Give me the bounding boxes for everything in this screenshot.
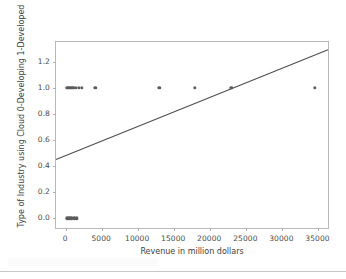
y-axis-label: Type of Industry using Cloud 0-Developin… <box>17 18 26 228</box>
y-axis-tick <box>53 88 56 89</box>
data-point <box>313 86 316 89</box>
y-axis-tick <box>53 140 56 141</box>
page-divider-rule <box>0 271 346 272</box>
x-axis-tick <box>102 228 103 231</box>
x-axis-tick <box>138 228 139 231</box>
y-axis-tick-label: 1.0 <box>28 82 50 91</box>
y-axis-tick-label: 0.0 <box>28 213 50 222</box>
y-axis-tick <box>53 218 56 219</box>
plot-area <box>55 41 329 229</box>
x-axis-tick-label: 15000 <box>161 234 185 243</box>
x-axis-tick-label: 5000 <box>91 234 111 243</box>
y-axis-tick-label: 1.2 <box>28 56 50 65</box>
y-axis-tick-label: 0.8 <box>28 108 50 117</box>
y-axis-tick-label: 0.6 <box>28 134 50 143</box>
y-axis-tick <box>53 192 56 193</box>
data-point <box>193 86 196 89</box>
scan-artifact <box>8 258 158 266</box>
data-point <box>157 86 160 89</box>
x-axis-tick <box>318 228 319 231</box>
data-point <box>94 86 97 89</box>
x-axis-tick-label: 10000 <box>125 234 149 243</box>
data-point <box>230 86 233 89</box>
scatter-plot-figure: Type of Industry using Cloud 0-Developin… <box>0 0 346 279</box>
data-point <box>80 86 83 89</box>
x-axis-tick-label: 25000 <box>233 234 257 243</box>
x-axis-tick <box>282 228 283 231</box>
x-axis-tick-label: 0 <box>63 234 68 243</box>
y-axis-tick <box>53 166 56 167</box>
x-axis-tick <box>246 228 247 231</box>
data-points-layer <box>56 42 328 228</box>
y-axis-tick-label: 0.2 <box>28 187 50 196</box>
x-axis-tick-label: 35000 <box>305 234 329 243</box>
y-axis-tick-label: 0.4 <box>28 161 50 170</box>
data-point <box>75 217 78 220</box>
x-axis-tick-label: 30000 <box>269 234 293 243</box>
x-axis-label: Revenue in million dollars <box>55 247 329 256</box>
y-axis-tick <box>53 114 56 115</box>
x-axis-tick <box>66 228 67 231</box>
x-axis-tick <box>210 228 211 231</box>
x-axis-tick-label: 20000 <box>197 234 221 243</box>
x-axis-tick <box>174 228 175 231</box>
y-axis-tick <box>53 62 56 63</box>
